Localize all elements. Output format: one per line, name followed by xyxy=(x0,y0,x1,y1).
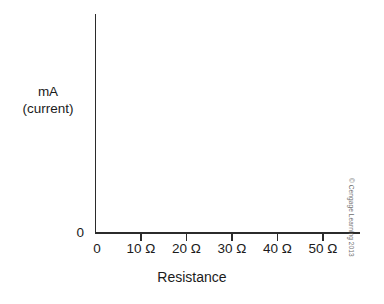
graph-figure: mA (current) 0 0 10 Ω 20 Ω 30 Ω 40 Ω 50 … xyxy=(0,0,384,304)
x-axis-title: Resistance xyxy=(0,269,384,285)
y-axis-label-unit: mA xyxy=(6,84,90,101)
x-axis-tick-label-0: 0 xyxy=(93,241,101,256)
x-axis-tick-label-10: 10 Ω xyxy=(127,241,156,256)
x-axis-tick-label-40: 40 Ω xyxy=(263,241,292,256)
y-axis-label-name: (current) xyxy=(6,101,90,118)
copyright-credit: © Cengage Learning 2013 xyxy=(348,178,355,257)
x-axis-tick-label-30: 30 Ω xyxy=(218,241,247,256)
x-axis-tick-label-20: 20 Ω xyxy=(172,241,201,256)
x-axis-tick-label-50: 50 Ω xyxy=(309,241,338,256)
y-axis-tick-label-0: 0 xyxy=(68,225,84,240)
y-axis-label: mA (current) xyxy=(6,84,90,118)
axes-drawing xyxy=(0,0,384,304)
